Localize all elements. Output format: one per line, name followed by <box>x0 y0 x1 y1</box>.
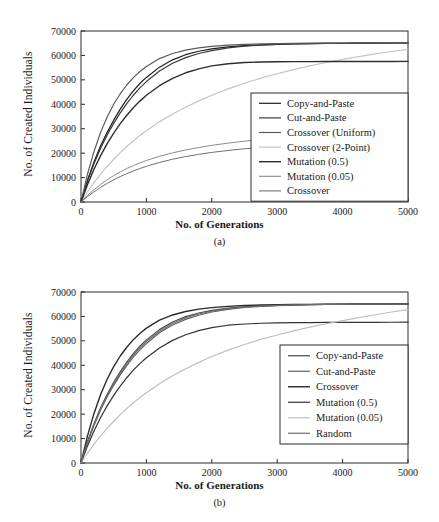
x-tick-label: 5000 <box>398 206 418 215</box>
y-tick-label: 50000 <box>51 335 76 346</box>
y-tick-label: 10000 <box>51 172 76 183</box>
y-tick-label: 20000 <box>51 409 76 420</box>
legend-label: Mutation (0.05) <box>287 171 354 183</box>
x-axis-label-a: No. of Generations <box>0 218 439 230</box>
x-tick-label: 0 <box>79 206 84 215</box>
x-tick-label: 5000 <box>398 467 418 476</box>
legend-label: Crossover (2-Point) <box>287 142 371 154</box>
y-tick-label: 0 <box>71 197 76 208</box>
y-tick-label: 40000 <box>51 360 76 371</box>
y-tick-label: 70000 <box>51 287 76 298</box>
y-tick-label: 10000 <box>51 433 76 444</box>
x-axis-label-b: No. of Generations <box>0 479 439 491</box>
legend-label: Copy-and-Paste <box>316 350 383 361</box>
y-tick-label: 60000 <box>51 311 76 322</box>
legend-label: Crossover (Uniform) <box>287 127 376 139</box>
x-tick-label: 4000 <box>333 206 353 215</box>
y-tick-label: 30000 <box>51 123 76 134</box>
x-tick-label: 2000 <box>202 467 222 476</box>
y-tick-label: 30000 <box>51 384 76 395</box>
x-tick-label: 4000 <box>333 467 353 476</box>
y-tick-label: 60000 <box>51 50 76 61</box>
legend-label: Crossover <box>316 381 359 392</box>
y-tick-label: 20000 <box>51 148 76 159</box>
legend-label: Mutation (0.05) <box>316 412 383 424</box>
y-tick-label: 40000 <box>51 99 76 110</box>
x-tick-label: 1000 <box>136 467 156 476</box>
x-tick-label: 1000 <box>136 206 156 215</box>
legend-label: Crossover <box>287 185 330 196</box>
x-tick-label: 2000 <box>202 206 222 215</box>
panel-caption-b: (b) <box>0 497 439 508</box>
y-tick-label: 0 <box>71 458 76 469</box>
x-tick-label: 3000 <box>267 467 287 476</box>
y-tick-label: 70000 <box>51 26 76 37</box>
x-tick-label: 3000 <box>267 206 287 215</box>
plot-area-a: 0100002000030000400005000060000700000100… <box>0 0 439 215</box>
x-tick-label: 0 <box>79 467 84 476</box>
legend-label: Copy-and-Paste <box>287 98 354 109</box>
legend-label: Random <box>316 428 352 439</box>
y-tick-label: 50000 <box>51 74 76 85</box>
chart-panel-a: No. of Created Individuals 0100002000030… <box>0 0 439 261</box>
panel-caption-a: (a) <box>0 236 439 247</box>
legend-label: Mutation (0.5) <box>287 156 349 168</box>
figure-container: No. of Created Individuals 0100002000030… <box>0 0 439 522</box>
legend-label: Cut-and-Paste <box>316 366 376 377</box>
legend-label: Cut-and-Paste <box>287 112 347 123</box>
chart-panel-b: No. of Created Individuals 0100002000030… <box>0 261 439 522</box>
plot-area-b: 0100002000030000400005000060000700000100… <box>0 261 439 476</box>
legend-label: Mutation (0.5) <box>316 397 378 409</box>
